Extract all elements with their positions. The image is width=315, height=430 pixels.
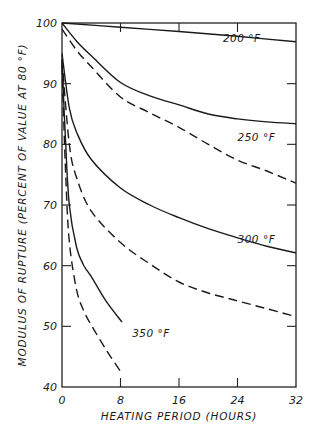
y-tick-label: 70	[43, 199, 57, 212]
y-tick-label: 50	[43, 320, 57, 333]
series-label: 300 °F	[238, 233, 276, 245]
x-tick-label: 0	[59, 394, 66, 407]
chart: 08162432405060708090100 200 °F250 °F300 …	[0, 0, 315, 430]
y-tick-label: 80	[43, 138, 57, 151]
curve-250-f-dashed	[62, 29, 296, 183]
data-curves	[62, 23, 296, 374]
curve-300-f	[62, 53, 296, 253]
x-tick-label: 24	[231, 394, 245, 407]
x-tick-label: 16	[172, 394, 186, 407]
curve-300-f-dashed	[62, 59, 296, 316]
y-axis-label: MODULUS OF RUPTURE (PERCENT OF VALUE AT …	[16, 44, 28, 367]
y-tick-label: 40	[43, 381, 57, 394]
series-labels: 200 °F250 °F300 °F350 °F	[132, 32, 275, 339]
x-tick-label: 32	[289, 394, 303, 407]
y-tick-label: 60	[43, 260, 57, 273]
x-axis-label: HEATING PERIOD (HOURS)	[101, 410, 257, 422]
plot-frame	[62, 23, 296, 387]
y-tick-label: 90	[43, 78, 57, 91]
series-label: 250 °F	[238, 131, 276, 143]
series-label: 350 °F	[132, 327, 170, 339]
plot-frame-rect	[62, 23, 296, 387]
y-tick-label: 100	[36, 17, 57, 30]
series-label: 200 °F	[223, 32, 261, 44]
curve-350-f	[62, 59, 122, 322]
axis-ticks: 08162432405060708090100	[36, 17, 303, 407]
x-tick-label: 8	[117, 394, 124, 407]
